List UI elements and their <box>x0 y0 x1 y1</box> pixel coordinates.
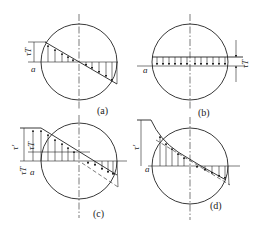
tau-prime-label: τ' <box>10 144 20 150</box>
tau-t-label-upper: τT <box>26 141 36 150</box>
caption-c: (c) <box>93 208 104 220</box>
stress-arrows <box>157 57 225 65</box>
point-a-label: a <box>143 65 148 75</box>
point-a-label: a <box>145 164 150 174</box>
stress-arrows <box>33 130 113 175</box>
stress-curve <box>151 120 226 180</box>
stress-distribution-figure: τT a (a) τT a (b) <box>0 0 254 229</box>
caption-b: (b) <box>198 107 210 119</box>
panel-a: τT a (a) <box>23 14 118 117</box>
panel-c: τ' τT τT a (c) <box>10 115 127 220</box>
point-a-label: a <box>31 64 36 74</box>
elastic-line <box>82 163 118 187</box>
point-a-label: a <box>30 167 35 177</box>
elastic-line <box>156 140 230 185</box>
caption-d: (d) <box>210 200 222 212</box>
tau-t-label: τT <box>240 59 250 68</box>
panel-d: τ' a (d) <box>131 117 240 220</box>
panel-b: τT a (b) <box>137 14 250 119</box>
stress-arrows <box>160 136 225 179</box>
tau-prime-label: τ' <box>131 144 141 150</box>
tau-t-label-lower: τT <box>18 166 28 175</box>
tau-t-label: τT <box>23 47 33 56</box>
caption-a: (a) <box>97 105 108 117</box>
